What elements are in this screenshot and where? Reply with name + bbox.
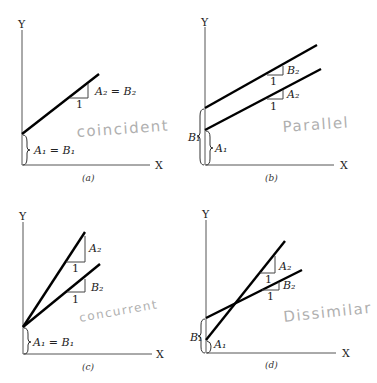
handwritten-annotation: coincident	[76, 117, 170, 141]
slope-label-upper: B₂	[286, 64, 300, 77]
slope-label-a: A₂	[88, 242, 101, 255]
handwritten-annotation: Parallel	[282, 113, 350, 136]
regression-line-a	[23, 232, 85, 327]
slope-label-lower: A₂	[286, 88, 299, 101]
y-axis-label: Y	[17, 18, 26, 31]
slope-run-label-a: 1	[72, 262, 79, 275]
slope-run-label-b: 1	[72, 293, 79, 306]
panel-a-coincident: Y X 1 A₂ = B₂ A₁ = B₁ (a) coincident	[17, 18, 170, 183]
intercept-brace-inner	[207, 341, 211, 353]
y-axis-label: Y	[201, 208, 210, 221]
panel-caption: (a)	[82, 173, 95, 183]
slope-label-a: A₂	[278, 260, 291, 273]
slope-run-label-lower: 1	[270, 100, 277, 113]
y-axis-label: Y	[18, 210, 27, 223]
handwritten-annotation: concurrent	[78, 297, 159, 325]
slope-run-label-a: 1	[265, 273, 272, 286]
intercept-label-inner: A₁	[213, 338, 226, 351]
intercept-brace-inner	[206, 131, 213, 165]
intercept-label-outer: B₁	[189, 331, 203, 344]
slope-run-label: 1	[76, 98, 83, 111]
panel-caption: (d)	[265, 360, 278, 370]
x-axis-label: X	[340, 159, 348, 172]
panel-caption: (c)	[82, 362, 95, 372]
panel-c-concurrent: Y X 1 A₂ 1 B₂ A₁ = B₁ (c) concurrent	[18, 210, 164, 372]
slope-run-label-b: 1	[267, 290, 274, 303]
intercept-label: A₁ = B₁	[32, 336, 74, 349]
intercept-brace	[24, 328, 31, 354]
intercept-label: A₁ = B₁	[33, 144, 75, 157]
x-axis-label: X	[156, 348, 164, 361]
slope-label: A₂ = B₂	[94, 85, 136, 98]
panel-caption: (b)	[265, 173, 278, 183]
y-axis-label: Y	[200, 16, 209, 29]
slope-label-b: B₂	[90, 281, 104, 294]
regression-line-comparison-diagram: Y X 1 A₂ = B₂ A₁ = B₁ (a) coincident Y X…	[0, 0, 377, 383]
x-axis-label: X	[155, 159, 163, 172]
panel-d-dissimilar: Y X 1 A₂ 1 B₂ B₁ A₁ (d) Dissimilar	[189, 208, 373, 370]
panel-b-parallel: Y X 1 B₂ 1 A₂ B₁ A₁ (b) Parallel	[187, 16, 350, 183]
handwritten-annotation: Dissimilar	[283, 299, 373, 326]
slope-label-b: B₂	[282, 279, 296, 292]
slope-run-label-upper: 1	[270, 75, 277, 88]
intercept-brace	[23, 135, 30, 165]
intercept-label-outer: B₁	[187, 131, 201, 144]
x-axis-label: X	[342, 347, 350, 360]
regression-line-b	[205, 45, 317, 108]
intercept-label-inner: A₁	[214, 142, 227, 155]
